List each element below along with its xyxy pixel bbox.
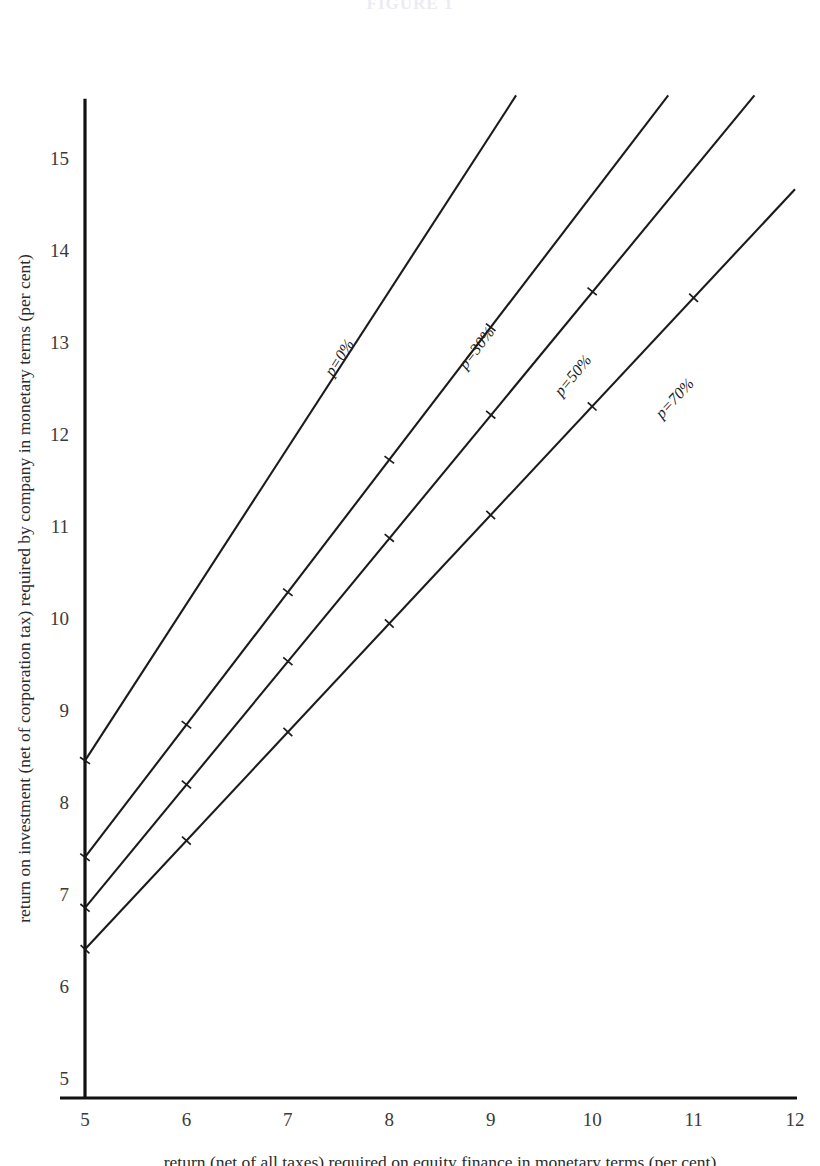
x-tick-group: 56789101112 xyxy=(80,1109,804,1130)
x-tick-label: 9 xyxy=(486,1109,496,1130)
series-label-p70: p=70% xyxy=(651,375,698,423)
x-tick-label: 10 xyxy=(583,1109,602,1130)
chart-canvas: 56789101112 56789101112131415 p=0%p=30%p… xyxy=(0,0,820,1166)
y-tick-label: 12 xyxy=(50,424,69,445)
y-tick-label: 10 xyxy=(50,608,69,629)
series-label-p30: p=30% xyxy=(454,324,498,374)
x-tick-label: 12 xyxy=(786,1109,805,1130)
y-tick-label: 8 xyxy=(60,792,70,813)
series-label-p0: p=0% xyxy=(320,336,357,380)
x-tick-label: 11 xyxy=(684,1109,702,1130)
series-label-group: p=0%p=30%p=50%p=70% xyxy=(320,324,697,423)
series-line-p0 xyxy=(85,95,516,760)
axis-title-group: return (net of all taxes) required on eq… xyxy=(14,254,716,1166)
y-tick-label: 14 xyxy=(50,240,70,261)
series-line-p50 xyxy=(85,95,754,907)
x-axis-title: return (net of all taxes) required on eq… xyxy=(164,1152,717,1166)
y-tick-label: 5 xyxy=(60,1068,70,1089)
x-tick-label: 8 xyxy=(385,1109,395,1130)
series-data-tick xyxy=(182,721,192,728)
series-line-p70 xyxy=(85,189,795,949)
x-tick-label: 7 xyxy=(283,1109,293,1130)
x-tick-label: 5 xyxy=(80,1109,90,1130)
series-line-p30 xyxy=(85,95,668,857)
y-tick-label: 13 xyxy=(50,332,69,353)
series-data-tick xyxy=(385,456,395,463)
figure-container: FIGURE 1 56789101112 56789101112131415 p… xyxy=(0,0,820,1166)
series-label-p50: p=50% xyxy=(550,351,595,400)
y-tick-label: 6 xyxy=(60,976,70,997)
x-tick-label: 6 xyxy=(182,1109,192,1130)
axes-group xyxy=(60,99,797,1098)
y-tick-label: 15 xyxy=(50,148,69,169)
y-axis-title: return on investment (net of corporation… xyxy=(14,254,34,923)
series-group xyxy=(80,95,795,953)
y-tick-label: 11 xyxy=(51,516,69,537)
y-tick-label: 9 xyxy=(60,700,70,721)
series-data-tick xyxy=(283,589,293,596)
y-tick-group: 56789101112131415 xyxy=(50,148,70,1089)
y-tick-label: 7 xyxy=(60,884,70,905)
